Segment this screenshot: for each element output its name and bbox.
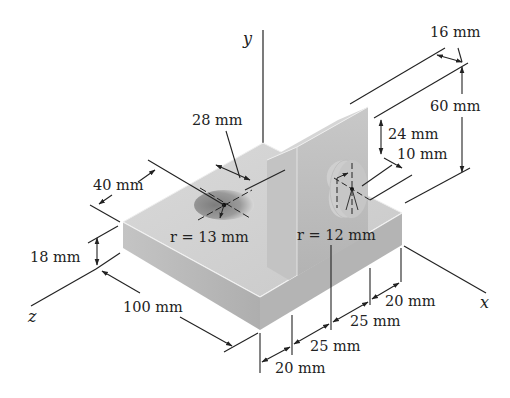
label-x-seg-1: 20 mm xyxy=(275,360,326,376)
upright-left-face xyxy=(267,147,297,280)
y-axis-label: y xyxy=(242,29,253,48)
label-40mm: 40 mm xyxy=(93,177,144,193)
label-r12: r = 12 mm xyxy=(297,227,376,243)
label-r13: r = 13 mm xyxy=(170,229,249,245)
bracket-diagram: y z x xyxy=(0,0,510,398)
label-28mm: 28 mm xyxy=(192,112,243,128)
label-24mm: 24 mm xyxy=(388,126,439,142)
z-axis-line xyxy=(31,269,96,306)
label-10mm: 10 mm xyxy=(397,146,448,162)
x-axis-line xyxy=(404,246,486,293)
label-x-seg-2: 25 mm xyxy=(310,338,361,354)
z-axis-label: z xyxy=(27,307,37,326)
label-x-seg-4: 20 mm xyxy=(385,293,436,309)
x-axis-label: x xyxy=(480,293,489,312)
label-100mm: 100 mm xyxy=(123,299,183,315)
label-16mm: 16 mm xyxy=(430,24,481,40)
label-x-seg-3: 25 mm xyxy=(350,313,401,329)
label-18mm: 18 mm xyxy=(30,249,81,265)
label-60mm: 60 mm xyxy=(430,98,481,114)
